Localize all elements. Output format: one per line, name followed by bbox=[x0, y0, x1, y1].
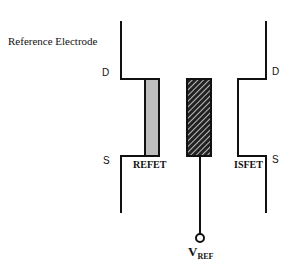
vref-label: VREF bbox=[188, 244, 214, 261]
refet-source-label: S bbox=[103, 155, 110, 166]
reference-electrode-label: Reference Electrode bbox=[8, 35, 98, 47]
reference-electrode-body bbox=[187, 79, 211, 156]
refet-drain-label: D bbox=[102, 67, 109, 78]
refet-isfet-diagram: Reference Electrode D S REFET VREF D S I… bbox=[0, 0, 290, 264]
isfet-drain-label: D bbox=[272, 66, 279, 77]
isfet-source-label: S bbox=[272, 154, 279, 165]
refet-gate bbox=[145, 79, 159, 156]
isfet-channel-outline bbox=[238, 21, 266, 213]
isfet-label: ISFET bbox=[234, 159, 263, 170]
refet-channel-outline bbox=[121, 21, 145, 213]
vref-terminal-icon bbox=[196, 234, 204, 242]
refet-label: REFET bbox=[133, 159, 167, 170]
